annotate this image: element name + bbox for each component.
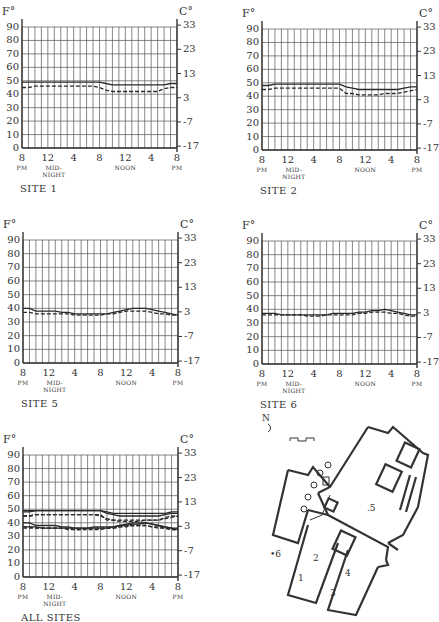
fahrenheit-tick-label: 70: [241, 263, 259, 273]
x-tick-sublabel: NOON: [108, 164, 142, 171]
celsius-tick-label: -17: [184, 356, 200, 366]
x-tick-sublabel: PM: [6, 379, 40, 386]
celsius-tick-label: 23: [423, 46, 436, 56]
x-tick-sublabel: PM: [400, 380, 434, 387]
fahrenheit-tick-label: 90: [241, 24, 259, 34]
celsius-unit-label: C°: [179, 7, 193, 17]
fahrenheit-tick-label: 10: [241, 132, 259, 142]
celsius-unit-label: C°: [180, 220, 194, 230]
celsius-tick-label: 3: [184, 307, 190, 317]
fahrenheit-tick-label: 0: [2, 572, 20, 582]
celsius-tick-label: 33: [423, 234, 436, 244]
fahrenheit-tick-label: 50: [241, 78, 259, 88]
fahrenheit-tick-label: 60: [241, 64, 259, 74]
x-tick-sublabel: MID- NIGHT: [37, 164, 71, 178]
fahrenheit-tick-label: 10: [2, 344, 20, 354]
fahrenheit-tick-label: 20: [2, 331, 20, 341]
x-tick-label: 8: [163, 368, 193, 378]
celsius-tick-label: 13: [183, 69, 196, 79]
fahrenheit-tick-label: 80: [2, 249, 20, 259]
celsius-unit-label: C°: [419, 9, 433, 19]
plan-label-site-1: 1: [298, 573, 304, 583]
celsius-tick-label: -17: [423, 357, 439, 367]
plan-label-site-5: .5: [367, 503, 376, 513]
x-tick-label: 8: [402, 155, 432, 165]
plan-label-site-3: 3: [330, 588, 336, 598]
celsius-tick-label: 23: [184, 473, 197, 483]
fahrenheit-unit-label: F°: [3, 220, 16, 230]
x-tick-sublabel: MID- NIGHT: [38, 593, 72, 607]
fahrenheit-tick-label: 40: [241, 91, 259, 101]
fahrenheit-tick-label: 90: [1, 22, 19, 32]
fahrenheit-tick-label: 80: [241, 37, 259, 47]
fahrenheit-tick-label: 80: [2, 464, 20, 474]
x-tick-sublabel: PM: [400, 166, 434, 173]
celsius-unit-label: C°: [419, 221, 433, 231]
celsius-tick-label: 3: [423, 308, 429, 318]
celsius-tick-label: -7: [184, 331, 194, 341]
celsius-tick-label: 3: [184, 521, 190, 531]
celsius-tick-label: 13: [184, 497, 197, 507]
fahrenheit-tick-label: 20: [241, 332, 259, 342]
fahrenheit-unit-label: F°: [242, 9, 255, 19]
chart-title: SITE 1: [20, 183, 57, 194]
fahrenheit-tick-label: 70: [2, 477, 20, 487]
fahrenheit-tick-label: 50: [1, 76, 19, 86]
fahrenheit-tick-label: 90: [241, 236, 259, 246]
celsius-tick-label: -17: [423, 143, 439, 153]
plan-label-site-6: •6: [270, 549, 281, 559]
fahrenheit-tick-label: 50: [2, 504, 20, 514]
fahrenheit-unit-label: F°: [2, 7, 15, 17]
celsius-tick-label: -7: [184, 546, 194, 556]
fahrenheit-tick-label: 10: [1, 130, 19, 140]
fahrenheit-tick-label: 30: [2, 531, 20, 541]
fahrenheit-tick-label: 70: [2, 262, 20, 272]
celsius-tick-label: 33: [184, 233, 197, 243]
celsius-tick-label: -7: [183, 117, 193, 127]
fahrenheit-tick-label: 70: [241, 51, 259, 61]
fahrenheit-tick-label: 90: [2, 235, 20, 245]
x-tick-sublabel: MID- NIGHT: [277, 166, 311, 180]
fahrenheit-tick-label: 30: [2, 317, 20, 327]
plan-label-site-4: 4: [345, 568, 351, 578]
celsius-tick-label: 13: [423, 283, 436, 293]
chart-title: SITE 5: [21, 398, 58, 409]
x-tick-sublabel: PM: [5, 164, 39, 171]
x-tick-label: 8: [402, 369, 432, 379]
fahrenheit-tick-label: 40: [241, 304, 259, 314]
x-tick-sublabel: MID- NIGHT: [38, 379, 72, 393]
fahrenheit-tick-label: 20: [241, 118, 259, 128]
fahrenheit-unit-label: F°: [242, 221, 255, 231]
x-tick-sublabel: NOON: [109, 379, 143, 386]
fahrenheit-tick-label: 30: [241, 318, 259, 328]
celsius-tick-label: 23: [183, 44, 196, 54]
fahrenheit-tick-label: 60: [241, 277, 259, 287]
celsius-tick-label: -7: [423, 332, 433, 342]
fahrenheit-tick-label: 60: [1, 62, 19, 72]
fahrenheit-tick-label: 0: [241, 359, 259, 369]
fahrenheit-tick-label: 20: [1, 116, 19, 126]
x-tick-sublabel: MID- NIGHT: [277, 380, 311, 394]
celsius-tick-label: 13: [423, 71, 436, 81]
celsius-tick-label: 33: [183, 20, 196, 30]
x-tick-sublabel: NOON: [348, 380, 382, 387]
celsius-tick-label: 3: [183, 93, 189, 103]
fahrenheit-tick-label: 30: [241, 105, 259, 115]
celsius-tick-label: 3: [423, 95, 429, 105]
x-tick-sublabel: PM: [161, 379, 195, 386]
celsius-tick-label: 23: [184, 258, 197, 268]
x-tick-sublabel: NOON: [109, 593, 143, 600]
x-tick-sublabel: PM: [245, 380, 279, 387]
north-label: N: [262, 413, 270, 423]
fahrenheit-tick-label: 50: [241, 291, 259, 301]
fahrenheit-tick-label: 60: [2, 491, 20, 501]
fahrenheit-tick-label: 0: [1, 143, 19, 153]
celsius-tick-label: -17: [184, 570, 200, 580]
fahrenheit-tick-label: 30: [1, 103, 19, 113]
fahrenheit-tick-label: 10: [241, 345, 259, 355]
fahrenheit-tick-label: 70: [1, 49, 19, 59]
fahrenheit-tick-label: 80: [241, 250, 259, 260]
fahrenheit-tick-label: 20: [2, 545, 20, 555]
celsius-tick-label: 23: [423, 259, 436, 269]
x-tick-label: 8: [162, 153, 192, 163]
